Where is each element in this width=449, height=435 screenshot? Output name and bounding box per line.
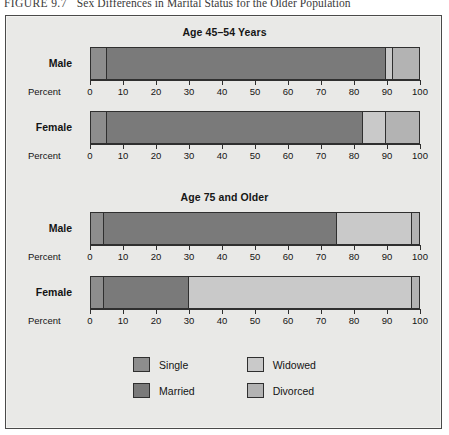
axis-tick-label: 60 — [283, 150, 294, 161]
legend-label: Widowed — [273, 359, 316, 371]
axis-tick-label: 10 — [118, 251, 129, 262]
axis-tick — [321, 309, 322, 314]
legend-item[interactable]: Widowed — [247, 357, 316, 372]
bar-segment-single — [91, 112, 107, 143]
axis-tick — [123, 80, 124, 85]
axis-tick-label: 0 — [87, 150, 92, 161]
legend-label: Married — [159, 385, 195, 397]
axis-tick-label: 0 — [87, 251, 92, 262]
axis-tick — [90, 80, 91, 85]
bar-category-label: Male — [6, 212, 80, 245]
axis-tick-label: 50 — [250, 86, 261, 97]
legend-item[interactable]: Married — [133, 383, 195, 398]
axis-tick-label: 100 — [412, 86, 428, 97]
panel-title: Age 45–54 Years — [6, 26, 443, 38]
axis-tick-label: 40 — [217, 315, 228, 326]
axis-tick-label: 90 — [382, 86, 393, 97]
axis-tick — [387, 309, 388, 314]
axis-tick-label: 20 — [151, 86, 162, 97]
legend-item[interactable]: Divorced — [247, 383, 316, 398]
axis-tick-label: 0 — [87, 86, 92, 97]
figure-number: FIGURE 9.7 — [4, 0, 67, 9]
bar-block-female: Female 0102030405060708090100 Percent — [6, 276, 443, 332]
stacked-bar[interactable] — [90, 276, 420, 309]
bar-row: Female — [6, 111, 443, 144]
stacked-bar[interactable] — [90, 212, 420, 245]
bar-segment-single — [91, 213, 104, 244]
axis-tick — [288, 80, 289, 85]
axis-tick-label: 70 — [316, 315, 327, 326]
bar-block-male: Male 0102030405060708090100 Percent — [6, 212, 443, 268]
axis-tick — [255, 245, 256, 250]
axis-tick — [156, 80, 157, 85]
axis-tick — [420, 245, 421, 250]
legend-item[interactable]: Single — [133, 357, 195, 372]
axis-tick — [387, 80, 388, 85]
axis-tick-label: 90 — [382, 251, 393, 262]
bar-segment-widowed — [386, 48, 393, 79]
bar-segment-married — [104, 277, 189, 308]
axis-tick-label: 0 — [87, 315, 92, 326]
axis-tick-label: 50 — [250, 315, 261, 326]
axis-tick-label: 20 — [151, 251, 162, 262]
axis-tick — [90, 144, 91, 149]
axis-tick-label: 30 — [184, 315, 195, 326]
bar-segment-divorced — [412, 277, 419, 308]
bar-row: Female — [6, 276, 443, 309]
axis-tick-label: 90 — [382, 315, 393, 326]
axis-tick-label: 40 — [217, 86, 228, 97]
axis-tick-label: 10 — [118, 150, 129, 161]
axis-tick — [255, 309, 256, 314]
axis-tick-label: 90 — [382, 150, 393, 161]
axis-tick — [156, 245, 157, 250]
axis-tick-label: 20 — [151, 315, 162, 326]
bar-segment-married — [107, 112, 363, 143]
axis-tick — [90, 245, 91, 250]
percent-axis: 0102030405060708090100 — [90, 245, 420, 267]
bar-row: Male — [6, 212, 443, 245]
axis-tick — [189, 80, 190, 85]
axis-tick — [156, 144, 157, 149]
axis-title: Percent — [28, 150, 61, 161]
axis-tick-label: 30 — [184, 150, 195, 161]
axis-tick-label: 80 — [349, 150, 360, 161]
axis-tick — [387, 245, 388, 250]
bar-segment-married — [107, 48, 386, 79]
axis-tick — [123, 245, 124, 250]
axis-tick — [321, 144, 322, 149]
axis-title: Percent — [28, 251, 61, 262]
axis-tick-label: 10 — [118, 86, 129, 97]
axis-tick — [321, 245, 322, 250]
axis-tick — [387, 144, 388, 149]
percent-axis: 0102030405060708090100 — [90, 80, 420, 102]
axis-tick — [123, 144, 124, 149]
axis-tick-label: 70 — [316, 86, 327, 97]
axis-tick — [189, 309, 190, 314]
legend-label: Divorced — [273, 385, 314, 397]
legend-swatch-icon — [247, 357, 264, 372]
stacked-bar[interactable] — [90, 111, 420, 144]
legend-grid: Single Widowed Married Divorced — [133, 357, 316, 398]
axis-tick — [288, 144, 289, 149]
figure-caption: FIGURE 9.7Sex Differences in Marital Sta… — [4, 0, 445, 11]
axis-title: Percent — [28, 86, 61, 97]
stacked-bar[interactable] — [90, 47, 420, 80]
bar-segment-single — [91, 277, 104, 308]
legend-swatch-icon — [133, 383, 150, 398]
axis-tick-label: 40 — [217, 251, 228, 262]
axis-tick-label: 10 — [118, 315, 129, 326]
bar-row: Male — [6, 47, 443, 80]
axis-tick-label: 20 — [151, 150, 162, 161]
axis-tick-label: 40 — [217, 150, 228, 161]
axis-tick-label: 50 — [250, 150, 261, 161]
bar-category-label: Female — [6, 111, 80, 144]
percent-axis: 0102030405060708090100 — [90, 309, 420, 331]
axis-tick — [354, 309, 355, 314]
chart-panel-age-75-plus: Age 75 and Older Male 010203040506070809… — [6, 191, 443, 332]
bar-category-label: Female — [6, 276, 80, 309]
legend-swatch-icon — [133, 357, 150, 372]
axis-tick-label: 80 — [349, 251, 360, 262]
axis-tick — [354, 80, 355, 85]
axis-tick — [189, 144, 190, 149]
bar-segment-widowed — [363, 112, 386, 143]
